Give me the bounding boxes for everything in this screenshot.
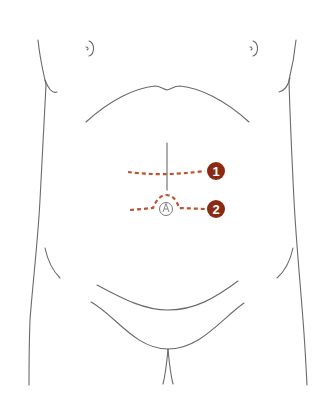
right-armpit-curve [279,78,290,92]
groin-line-right [168,349,173,384]
torso-diagram: 1 2 [0,0,330,404]
label-badge-1: 1 [207,162,225,180]
groin-line-left [163,349,168,384]
rib-margin-curve [86,86,249,122]
left-nipple [86,41,94,56]
label-badge-1-text: 1 [212,164,219,179]
upper-lower-abdomen-fold [97,281,238,310]
left-waist-curve [45,248,60,278]
label-badge-2: 2 [207,200,225,218]
right-waist-curve [277,248,293,278]
label-badge-2-text: 2 [212,202,219,217]
navel-icon [160,203,173,216]
left-armpit-curve [45,80,57,92]
right-torso-outline [289,40,307,385]
right-nipple [250,41,258,56]
left-torso-outline [29,40,46,385]
pubic-fold [91,302,244,349]
